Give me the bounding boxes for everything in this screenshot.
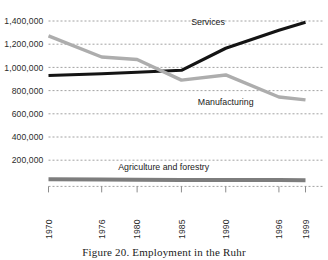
series-label-manufacturing: Manufacturing [198,97,254,107]
y-tick-label: 1,400,000 [4,16,43,26]
x-tick-label: 1985 [177,219,187,239]
x-tick-label: 1990 [221,219,231,239]
y-tick-label: 400,000 [12,132,44,142]
figure-container: 200,000400,000600,000800,0001,000,0001,2… [0,0,328,260]
x-tick-label: 1970 [44,219,54,239]
series-label-services: Services [191,17,225,27]
x-tick-label: 1999 [301,219,311,239]
series-lines-group [49,22,306,180]
x-axis-tick-labels: 1970197619801985199019961999 [44,186,311,239]
y-tick-label: 600,000 [12,109,44,119]
employment-line-chart: 200,000400,000600,000800,0001,000,0001,2… [0,0,328,246]
series-label-agriculture-and-forestry: Agriculture and forestry [118,162,210,172]
figure-caption: Figure 20. Employment in the Ruhr [0,246,328,258]
y-tick-label: 1,000,000 [4,63,43,73]
series-annotations: ServicesManufacturingAgriculture and for… [118,17,253,172]
x-tick-label: 1976 [97,219,107,239]
y-axis-tick-labels: 200,000400,000600,000800,0001,000,0001,2… [4,16,43,165]
y-tick-label: 200,000 [12,155,44,165]
y-tick-label: 1,200,000 [4,39,43,49]
y-tick-label: 800,000 [12,86,44,96]
x-tick-label: 1996 [274,219,284,239]
x-tick-label: 1980 [132,219,142,239]
series-line-agriculture-and-forestry [49,179,306,180]
